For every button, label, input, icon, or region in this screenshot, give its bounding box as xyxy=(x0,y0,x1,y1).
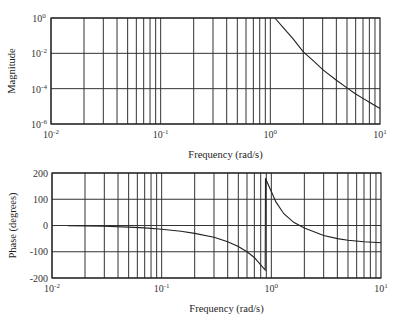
x-tick-label: 10-1 xyxy=(153,128,169,140)
x-tick-label: 100 xyxy=(264,128,278,140)
y-tick-label: 10-4 xyxy=(31,83,47,95)
phase-curve xyxy=(68,178,381,270)
y-tick-label: 200 xyxy=(33,168,48,179)
y-axis-label: Magnitude xyxy=(6,48,17,94)
y-tick-label: 0 xyxy=(43,220,48,231)
x-axis-label: Frequency (rad/s) xyxy=(189,303,264,315)
y-tick-label: -200 xyxy=(30,273,48,284)
magnitude-curve xyxy=(275,18,380,109)
x-tick-label: 101 xyxy=(374,282,388,294)
x-tick-label: 10-1 xyxy=(154,282,170,294)
x-tick-label: 100 xyxy=(265,282,279,294)
y-tick-label: -100 xyxy=(30,246,48,257)
x-tick-label: 10-2 xyxy=(43,128,59,140)
magnitude-plot: 10-210-110010110010-210-410-6Frequency (… xyxy=(6,12,387,161)
plot-frame xyxy=(51,18,380,124)
y-tick-label: 100 xyxy=(33,194,48,205)
y-tick-label: 100 xyxy=(32,12,46,24)
x-axis-label: Frequency (rad/s) xyxy=(188,149,263,161)
phase-plot: 10-210-11001012001000-100-200Frequency (… xyxy=(7,168,388,316)
y-axis-label: Phase (degrees) xyxy=(7,192,19,259)
y-tick-label: 10-2 xyxy=(31,47,47,59)
x-tick-label: 10-2 xyxy=(44,282,60,294)
bode-plot: 10-210-110010110010-210-410-6Frequency (… xyxy=(0,0,397,323)
x-tick-label: 101 xyxy=(373,128,387,140)
